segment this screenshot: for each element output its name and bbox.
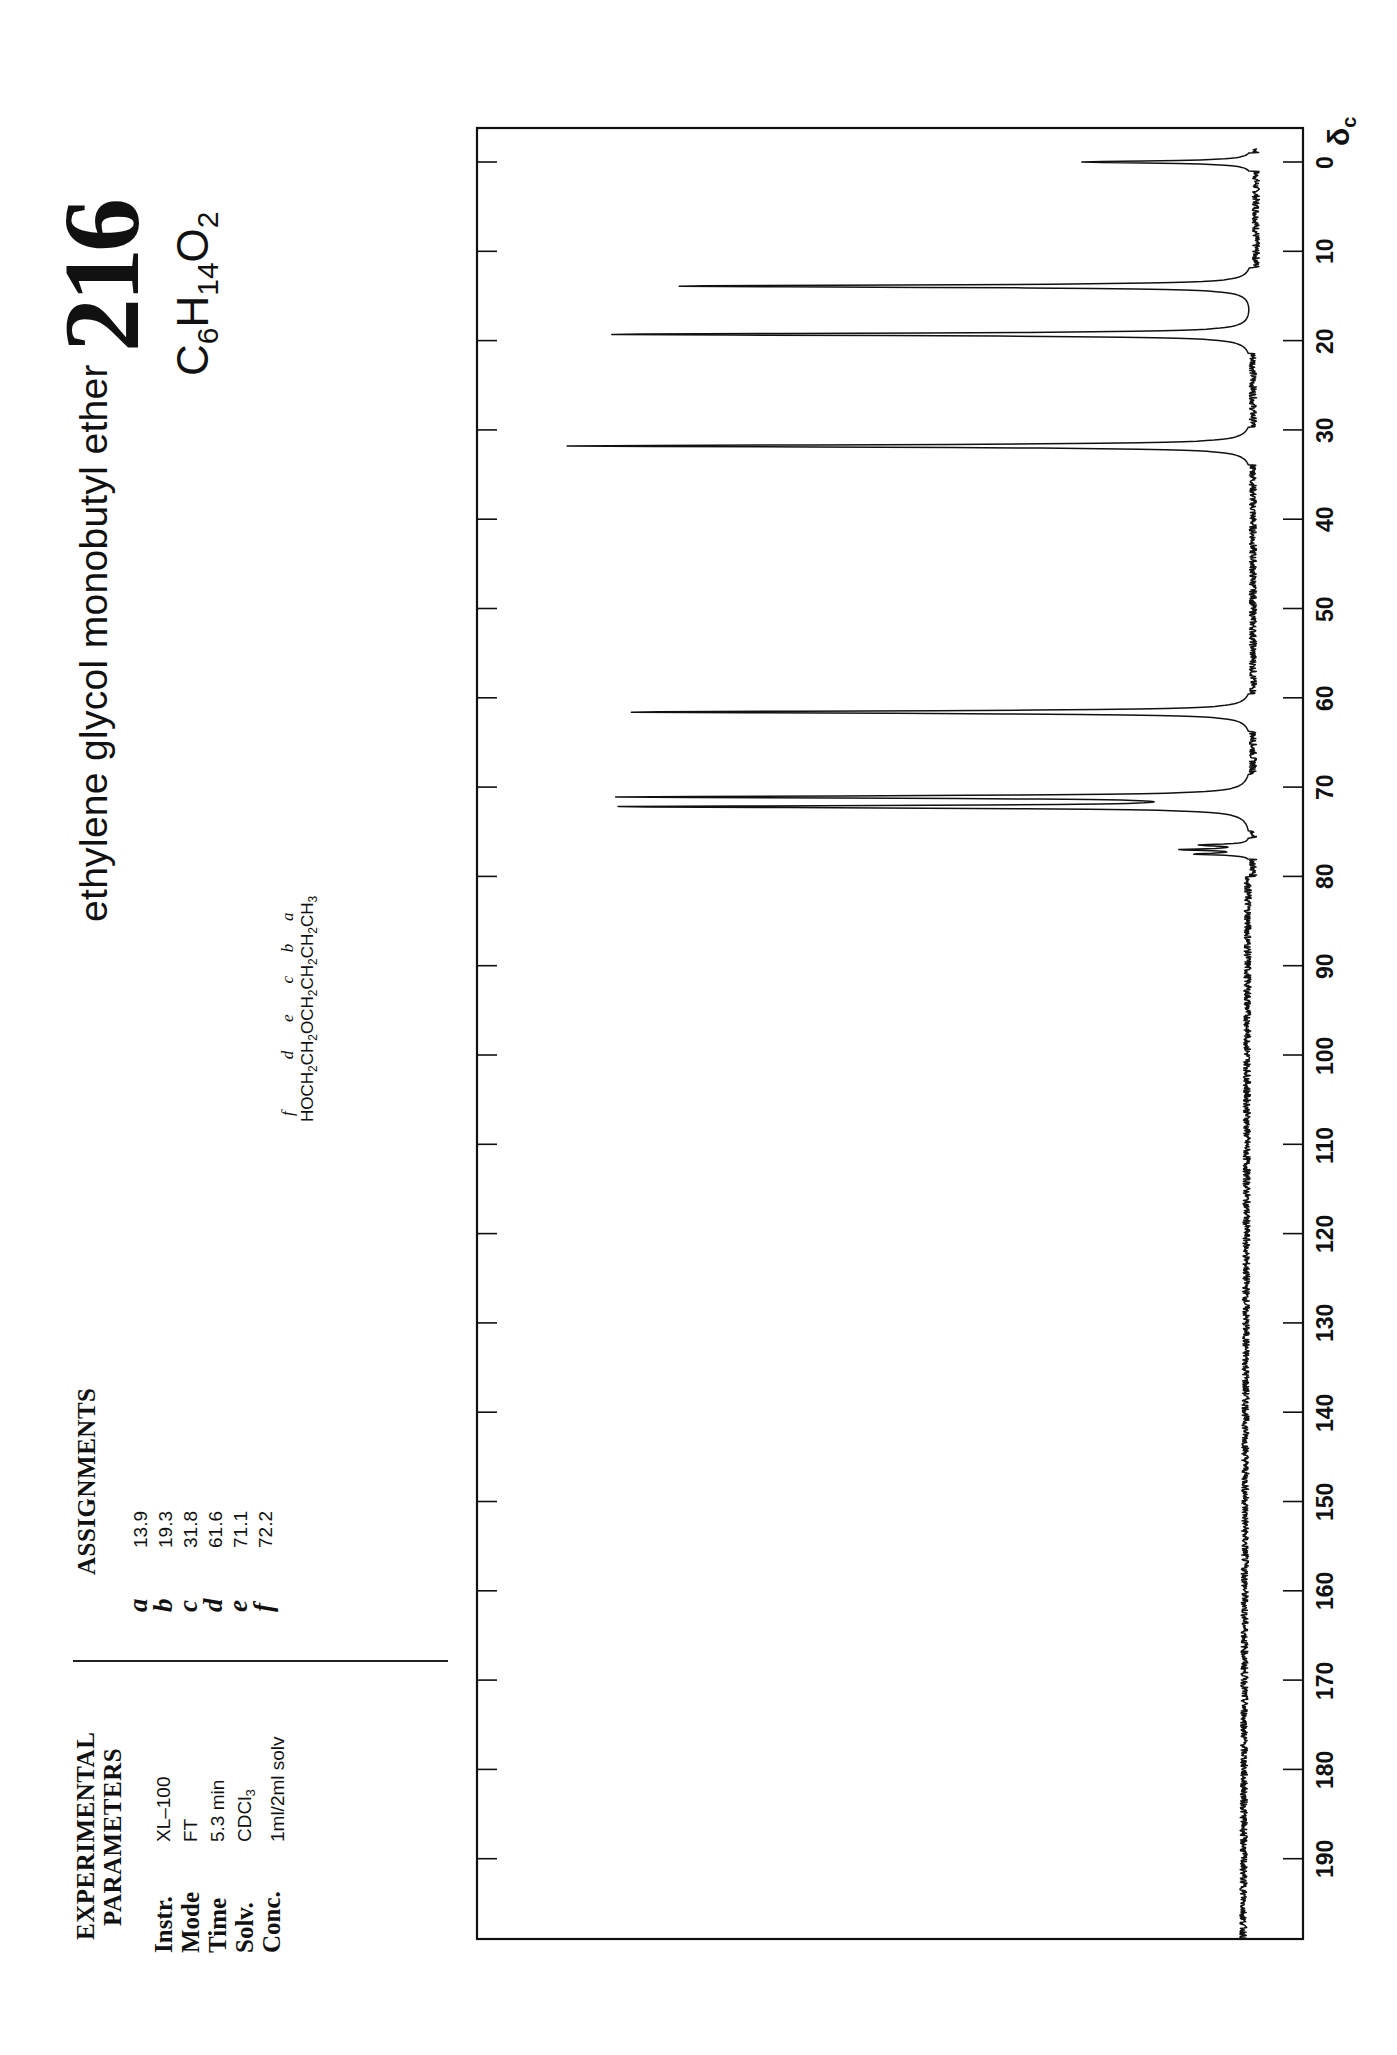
tick-label: 0 bbox=[1312, 156, 1339, 169]
tick-label: 160 bbox=[1312, 1572, 1339, 1610]
tick-label: 70 bbox=[1312, 775, 1339, 801]
tick-label: 110 bbox=[1312, 1127, 1339, 1164]
tick-label: 190 bbox=[1312, 1840, 1339, 1878]
tick-label: 180 bbox=[1312, 1751, 1339, 1789]
spectrum-chart bbox=[0, 0, 1397, 2055]
tick-label: 60 bbox=[1312, 685, 1339, 711]
tick-label: 40 bbox=[1312, 507, 1339, 533]
spectrum-trace bbox=[567, 149, 1259, 1939]
tick-label: 30 bbox=[1312, 417, 1339, 443]
tick-label: 20 bbox=[1312, 328, 1339, 354]
delta-sub: c bbox=[1338, 117, 1360, 128]
tick-label: 80 bbox=[1312, 864, 1339, 890]
tick-label: 10 bbox=[1312, 239, 1339, 265]
axis-unit-label: δc bbox=[1322, 117, 1361, 146]
plot-frame bbox=[477, 128, 1303, 1939]
delta-symbol: δ bbox=[1322, 128, 1355, 146]
tick-label: 130 bbox=[1312, 1304, 1339, 1342]
tick-label: 100 bbox=[1312, 1036, 1339, 1074]
tick-label: 120 bbox=[1312, 1215, 1339, 1253]
tick-label: 90 bbox=[1312, 953, 1339, 979]
tick-label: 140 bbox=[1312, 1393, 1339, 1431]
tick-label: 150 bbox=[1312, 1483, 1339, 1521]
tick-label: 50 bbox=[1312, 596, 1339, 622]
tick-label: 170 bbox=[1312, 1661, 1339, 1699]
